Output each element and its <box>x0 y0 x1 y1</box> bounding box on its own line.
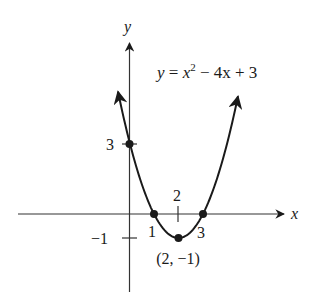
equation-label: y = x2 − 4x + 3 <box>155 61 257 82</box>
x-tick-label-2: 2 <box>173 187 181 204</box>
equation-lhs: y <box>155 63 165 82</box>
y-tick-label-3: 3 <box>106 136 114 153</box>
x-tick-label-1: 1 <box>148 223 156 240</box>
x-tick-label-3: 3 <box>197 224 205 241</box>
equation-rest: − 4x + 3 <box>196 63 258 82</box>
equation-eq: = <box>165 63 183 82</box>
y-axis-label: y <box>122 18 132 36</box>
x-axis-label: x <box>290 205 298 222</box>
parabola-chart: x y 3 −1 1 2 3 (2, −1) y = x2 − 4x + 3 <box>0 0 311 296</box>
point-vertex <box>175 234 183 242</box>
y-tick-label-neg1: −1 <box>91 230 108 247</box>
point-y-intercept <box>126 140 134 148</box>
vertex-label: (2, −1) <box>156 250 200 268</box>
point-root-1 <box>150 210 158 218</box>
point-root-3 <box>199 210 207 218</box>
